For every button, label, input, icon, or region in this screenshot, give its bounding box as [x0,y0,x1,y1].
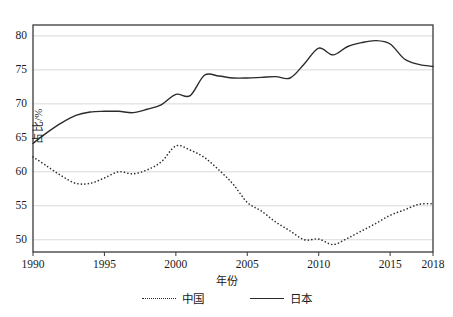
x-axis-tick-label: 1995 [82,259,126,271]
y-axis-tick-label: 65 [1,132,27,144]
y-axis-tick-label: 50 [1,234,27,246]
x-axis-tick-label: 2010 [297,259,341,271]
y-axis-title: 占比/% [29,91,45,161]
chart-legend: 中国 日本 [0,290,453,306]
legend-label-china: 中国 [182,290,204,306]
series-line-china [33,145,433,244]
x-axis-title: 年份 [0,272,453,288]
legend-entry-china: 中国 [142,290,204,306]
chart-figure: 占比/% 年份 50556065707580 19901995200020052… [0,0,453,317]
x-axis-tick-label: 2018 [411,259,453,271]
x-axis-tick-label: 2005 [225,259,269,271]
y-axis-tick-label: 60 [1,166,27,178]
y-axis-tick-label: 70 [1,98,27,110]
y-axis-tick-label: 55 [1,200,27,212]
legend-line-dotted-icon [142,294,176,303]
legend-line-solid-icon [250,294,284,303]
x-axis-tick-label: 1990 [11,259,55,271]
x-axis-tick-label: 2015 [368,259,412,271]
legend-entry-japan: 日本 [250,290,312,306]
series-line-japan [33,41,433,144]
plot-frame [33,25,433,252]
y-axis-tick-label: 75 [1,64,27,76]
x-axis-tick-label: 2000 [154,259,198,271]
legend-label-japan: 日本 [290,290,312,306]
y-axis-tick-label: 80 [1,30,27,42]
